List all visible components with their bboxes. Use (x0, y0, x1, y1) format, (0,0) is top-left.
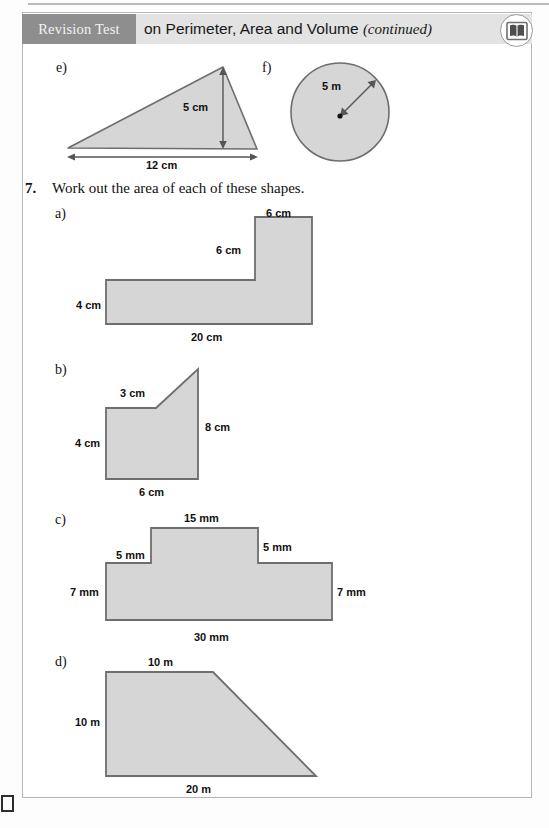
dimension-label-e-height: 5 cm (183, 101, 208, 113)
page-title: on Perimeter, Area and Volume (continued… (144, 14, 432, 44)
dimension-label-a-top: 6 cm (266, 207, 291, 219)
part-label-c: c) (55, 512, 66, 528)
dimension-label-b-left: 4 cm (75, 437, 100, 449)
dimension-label-c-left-step: 5 mm (116, 549, 145, 561)
dimension-label-f-radius: 5 m (322, 80, 341, 92)
figure-d-trapezium (101, 666, 325, 784)
figure-e-triangle (56, 56, 286, 168)
corner-registration-mark (1, 795, 14, 812)
dimension-label-d-bottom: 20 m (186, 783, 211, 795)
question-text: Work out the area of each of these shape… (52, 180, 304, 197)
dimension-label-a-left: 4 cm (76, 299, 101, 311)
dimension-label-c-right-height: 7 mm (337, 586, 366, 598)
open-book-icon (500, 14, 533, 47)
figure-a-l-shape (103, 212, 359, 330)
figure-c-t-shape (103, 524, 351, 630)
top-rule (28, 3, 549, 5)
figure-f-circle (288, 56, 396, 168)
dimension-label-d-top: 10 m (148, 656, 173, 668)
header-band: Revision Test on Perimeter, Area and Vol… (22, 14, 532, 44)
page-title-main: on Perimeter, Area and Volume (144, 20, 359, 37)
part-label-f: f) (262, 60, 271, 76)
dimension-label-c-top: 15 mm (184, 512, 219, 524)
dimension-label-b-right: 8 cm (205, 421, 230, 433)
dimension-label-b-top: 3 cm (120, 387, 145, 399)
question-number: 7. (25, 180, 36, 197)
page-title-continued: (continued) (363, 21, 432, 37)
dimension-label-c-right-step: 5 mm (263, 541, 292, 553)
dimension-label-c-left-height: 7 mm (70, 586, 99, 598)
part-label-b: b) (55, 362, 67, 378)
open-book-icon-glyph (506, 21, 528, 41)
revision-test-tag: Revision Test (22, 14, 136, 44)
dimension-label-e-base: 12 cm (146, 159, 177, 171)
part-label-a: a) (55, 206, 66, 222)
dimension-label-d-left: 10 m (75, 716, 100, 728)
dimension-label-c-bottom: 30 mm (194, 631, 229, 643)
dimension-label-b-bottom: 6 cm (139, 486, 164, 498)
dimension-label-a-bottom: 20 cm (191, 331, 222, 343)
part-label-d: d) (55, 654, 67, 670)
dimension-label-a-inner: 6 cm (216, 244, 241, 256)
figure-b-step-trapezoid (103, 366, 213, 486)
